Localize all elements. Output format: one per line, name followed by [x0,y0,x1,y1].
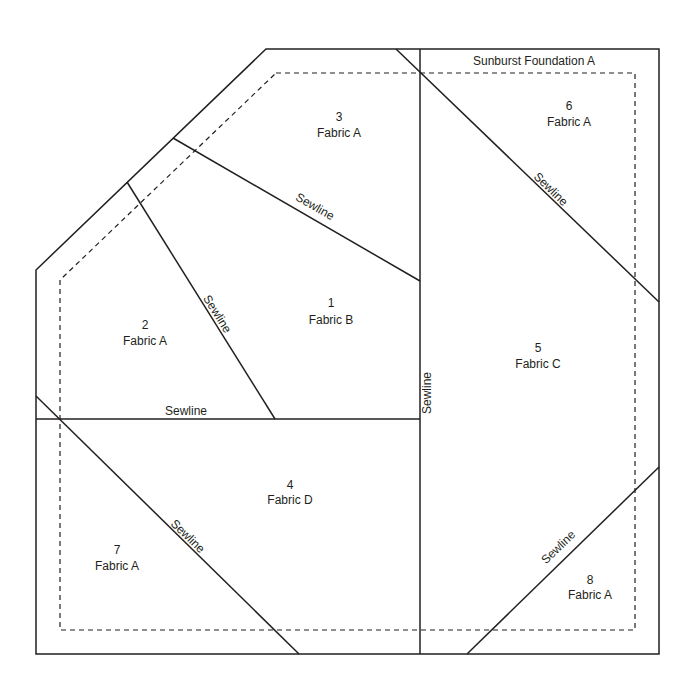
sewline-1-3 [173,138,420,281]
piece-1-fabric: Fabric B [309,313,354,327]
piece-3-number: 3 [336,110,343,124]
piece-7-number: 7 [114,543,121,557]
sewline-label-5-6: Sewline [531,169,571,208]
foundation-pattern: Sunburst Foundation A 1 Fabric B 2 Fabri… [0,0,694,691]
piece-7-fabric: Fabric A [95,559,139,573]
piece-5-number: 5 [535,341,542,355]
sewline-label-4-7: Sewline [168,516,208,555]
piece-4-number: 4 [287,478,294,492]
piece-2-fabric: Fabric A [123,334,167,348]
piece-8-number: 8 [587,573,594,587]
sewline-5-6 [396,49,659,302]
sewline-label-1-2: Sewline [200,292,234,335]
pattern-title: Sunburst Foundation A [473,54,595,68]
sewline-label-1-3: Sewline [293,190,337,223]
piece-6-number: 6 [566,99,573,113]
piece-3-fabric: Fabric A [317,126,361,140]
piece-6-fabric: Fabric A [547,115,591,129]
sewline-label-5-8: Sewline [538,527,578,566]
piece-4-fabric: Fabric D [267,493,313,507]
piece-8-fabric: Fabric A [568,588,612,602]
piece-5-fabric: Fabric C [515,357,561,371]
sewline-5-8 [467,467,659,654]
piece-2-number: 2 [142,318,149,332]
sewline-label-vertical: Sewline [420,372,434,414]
sewline-4-7 [36,396,299,654]
sewline-label-horizontal: Sewline [165,404,207,418]
piece-1-number: 1 [328,296,335,310]
